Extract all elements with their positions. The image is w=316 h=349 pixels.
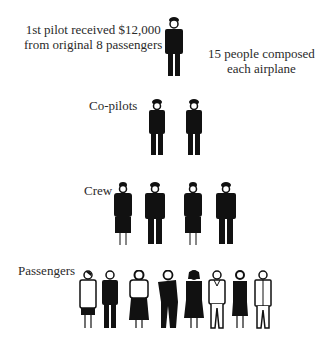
composition-note-line2: each airplane — [208, 61, 315, 76]
passenger-2-figure-icon — [100, 270, 120, 330]
tier-label-passengers: Passengers — [18, 263, 75, 278]
pilot-figure-icon — [162, 14, 186, 78]
passenger-7-figure-icon — [230, 270, 250, 330]
composition-note: 15 people composed each airplane — [208, 46, 315, 76]
passenger-4-figure-icon — [156, 270, 180, 330]
crew-female-figure-icon — [112, 181, 134, 247]
passenger-8-figure-icon — [253, 270, 273, 330]
passenger-3-figure-icon — [128, 270, 150, 330]
co-pilot-figure-icon — [147, 98, 167, 156]
crew-male-figure-icon — [215, 181, 237, 247]
co-pilot-figure-icon — [184, 98, 204, 156]
crew-male-figure-icon — [144, 181, 166, 247]
pilot-note-line2: from original 8 passengers — [24, 37, 162, 52]
pilot-note: 1st pilot received $12,000 from original… — [24, 22, 162, 52]
tier-label-crew: Crew — [84, 183, 112, 198]
crew-female-figure-icon — [182, 181, 204, 247]
passenger-1-figure-icon — [78, 270, 98, 330]
passenger-6-figure-icon — [207, 270, 227, 330]
passenger-5-figure-icon — [183, 270, 205, 330]
composition-note-line1: 15 people composed — [208, 46, 315, 61]
tier-label-co-pilots: Co-pilots — [89, 98, 137, 113]
pilot-note-line1: 1st pilot received $12,000 — [24, 22, 162, 37]
